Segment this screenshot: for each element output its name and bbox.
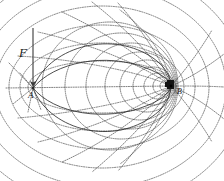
hyperbola-axis [6, 86, 171, 88]
solid-ellipse-upper-2 [33, 60, 171, 88]
hyperbola-family [6, 2, 224, 172]
solid-ellipse-lower-2 [33, 86, 171, 114]
focus-b-label: B [177, 88, 182, 96]
force-label: F [19, 46, 27, 59]
figure-root: F A B [0, 0, 224, 181]
hyperbola-r2 [171, 54, 224, 86]
hyperbola-u1 [120, 10, 171, 86]
focus-a-label: A [28, 91, 34, 100]
spoke-a-4 [33, 88, 41, 110]
spoke-a-5 [20, 73, 33, 88]
